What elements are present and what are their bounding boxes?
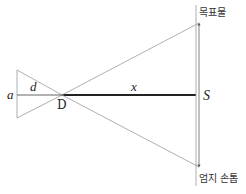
small-triangle-lower-ray <box>17 95 62 118</box>
label-d: d <box>30 79 37 94</box>
label-x: x <box>130 79 137 94</box>
small-triangle-upper-ray <box>17 70 62 95</box>
label-thumbnail: 엄지 손톱 <box>199 173 238 184</box>
label-target: 목표물 <box>199 7 226 18</box>
large-triangle-lower-ray <box>62 95 199 167</box>
label-D: D <box>57 98 67 112</box>
label-a: a <box>7 87 14 102</box>
similar-triangles-diagram: a d D x S 목표물 엄지 손톱 <box>0 0 246 194</box>
label-S: S <box>203 88 210 103</box>
